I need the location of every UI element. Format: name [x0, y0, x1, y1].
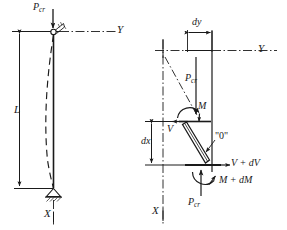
left-diagram-group — [12, 9, 118, 226]
column-buckling-figure: Pcr L Y X dy Pcr M V dx "0" V + dV M + d… — [0, 0, 287, 230]
shear-bottom-label: V + dV — [231, 158, 260, 168]
buckled-shape-curve — [46, 35, 54, 188]
left-y-axis-label: Y — [117, 24, 123, 35]
right-bottom-critical-load-label: Pcr — [188, 197, 200, 207]
left-critical-load-label: Pcr — [33, 2, 45, 12]
moment-bottom-label: M + dM — [219, 175, 252, 185]
right-diagram-group — [0, 0, 277, 225]
point-zero-leader — [206, 140, 215, 152]
dy-dimension — [188, 30, 213, 52]
moment-bottom-arrow — [193, 172, 216, 185]
dy-dimension-label: dy — [192, 17, 201, 27]
shear-top-label: V — [167, 124, 173, 134]
point-zero-label: "0" — [215, 131, 228, 141]
dx-dimension-label: dx — [141, 136, 150, 146]
right-y-axis-label: Y — [258, 43, 264, 54]
right-x-axis-label: X — [152, 205, 159, 216]
moment-top-label: M — [198, 101, 206, 111]
column-length-label: L — [14, 104, 20, 115]
figure-canvas — [0, 0, 287, 230]
differential-element — [0, 0, 210, 163]
left-x-axis-label: X — [44, 208, 51, 219]
right-top-critical-load-label: Pcr — [185, 73, 197, 83]
bottom-pin-support — [14, 189, 62, 202]
